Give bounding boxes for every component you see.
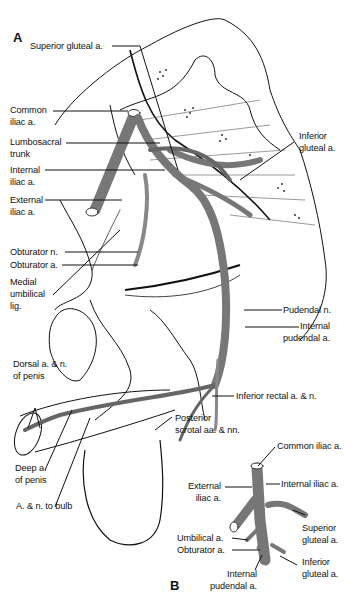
label-a-n-to-bulb: A. & n. to bulb [16,500,72,512]
label-internal-pudendal-a: Internal pudendal a. [283,320,330,344]
label-external-iliac-a: External iliac a. [10,194,43,218]
label-b-obturator-a: Obturator a. [177,544,225,556]
label-b-external-iliac-a: External iliac a. [188,480,221,504]
label-internal-iliac-a: Internal iliac a. [10,164,40,188]
label-b-internal-pudendal-a: Internal pudendal a. [210,568,257,592]
label-dorsal-a-n-of-penis: Dorsal a. & n. of penis [13,358,67,382]
label-b-internal-iliac-a: Internal iliac a. [281,478,339,490]
label-pudendal-n: Pudendal n. [283,304,331,316]
label-common-iliac-a: Common iliac a. [10,104,47,128]
label-b-umbilical-a: Umbilical a. [177,532,223,544]
label-b-common-iliac-a: Common iliac a. [277,440,341,452]
label-inferior-gluteal-a: Inferior gluteal a. [299,130,335,154]
label-b-inferior-gluteal-a: Inferior gluteal a. [302,556,338,580]
panel-label-b: B [170,578,179,593]
anatomy-figure: A B Superior gluteal a. Common iliac a. … [0,0,358,599]
label-obturator-a: Obturator a. [10,259,58,271]
panel-label-a: A [13,30,22,45]
label-deep-a-of-penis: Deep a. of penis [15,462,46,486]
label-lumbosacral-trunk: Lumbosacral trunk [10,136,62,160]
label-medial-umbilical-lig: Medial umbilical lig. [10,276,45,312]
pelvis-outline [9,19,326,545]
label-inferior-rectal-a-n: Inferior rectal a. & n. [236,390,316,402]
label-b-superior-gluteal-a: Superior gluteal a. [302,522,338,546]
label-superior-gluteal-a: Superior gluteal a. [30,40,103,52]
label-posterior-scrotal: Posterior scrotal aa. & nn. [175,412,240,436]
label-obturator-n: Obturator n. [10,246,58,258]
